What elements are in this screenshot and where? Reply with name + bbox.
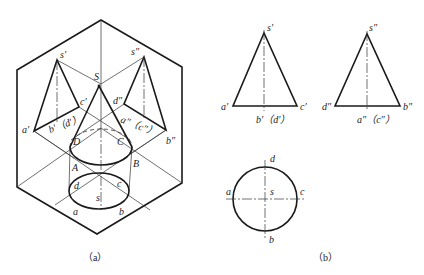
figure-b: s′ a′ c′ b′（d′） s″ d″ b″ a″（c″） d a s c …	[221, 22, 413, 263]
label-d-double: d″	[113, 95, 123, 106]
label-top-c: c	[300, 186, 305, 197]
cylinder-left-side	[69, 147, 70, 191]
label-s-double: s″	[131, 46, 140, 57]
caption-b: （b）	[313, 252, 338, 263]
label-top-d: d	[270, 153, 276, 164]
label-front-left: a′	[221, 101, 229, 112]
label-front-right: c′	[300, 101, 307, 112]
label-D: D	[72, 136, 81, 147]
label-a: a	[73, 206, 78, 217]
label-B: B	[133, 158, 139, 169]
label-b-double: b″	[166, 135, 176, 146]
label-side-apex: s″	[369, 22, 378, 33]
box-left-edge	[17, 128, 101, 187]
label-top-a: a	[226, 186, 231, 197]
label-side-left: d″	[322, 101, 332, 112]
label-side-right: b″	[403, 101, 413, 112]
figure-a: S s′ s″ a′ c′ b′（d′） d″ a″（c″） b″ D C A …	[17, 20, 182, 263]
label-front-bottom: b′（d′）	[256, 114, 290, 125]
label-s-prime: s′	[60, 49, 67, 60]
label-c-prime: c′	[80, 96, 87, 107]
front-view-triangle	[233, 33, 297, 106]
label-s: s	[96, 192, 100, 203]
label-a-prime: a′	[22, 124, 30, 135]
floor-line-1	[34, 131, 150, 210]
label-S: S	[94, 71, 99, 82]
label-top-s: s	[270, 186, 274, 197]
label-C: C	[117, 136, 124, 147]
label-c: c	[117, 178, 122, 189]
cone-projection-diagram: S s′ s″ a′ c′ b′（d′） d″ a″（c″） b″ D C A …	[0, 0, 424, 275]
label-d: d	[74, 180, 80, 191]
apex-point	[98, 85, 101, 88]
label-top-b: b	[269, 234, 274, 245]
label-side-bottom: a″（c″）	[357, 114, 395, 125]
label-b: b	[119, 206, 124, 217]
side-view-triangle	[335, 34, 400, 106]
caption-a: （a）	[83, 252, 107, 263]
label-front-apex: s′	[267, 22, 274, 33]
label-A: A	[71, 162, 79, 173]
